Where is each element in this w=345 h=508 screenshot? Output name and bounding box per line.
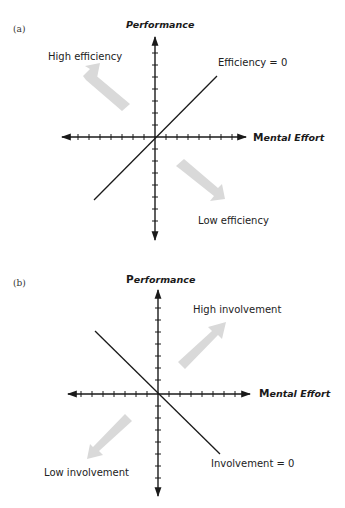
panel-label: (b): [13, 278, 26, 288]
panel-b-involvement: (b) Performance Mental Effort High invol…: [0, 254, 345, 508]
y-axis-title: Performance: [126, 19, 194, 30]
low-efficiency-arrow-icon: [176, 159, 225, 201]
involvement-zero-label: Involvement = 0: [211, 458, 294, 469]
low-efficiency-label: Low efficiency: [198, 215, 269, 226]
low-involvement-arrow-icon: [87, 414, 132, 459]
x-axis-title: Mental Effort: [259, 387, 330, 399]
panel-label: (a): [13, 24, 25, 34]
y-axis-title: Performance: [126, 273, 195, 285]
high-efficiency-label: High efficiency: [48, 51, 122, 62]
high-involvement-label: High involvement: [193, 304, 281, 315]
low-involvement-label: Low involvement: [44, 467, 129, 478]
x-axis-title: Mental Effort: [253, 131, 324, 143]
efficiency-zero-label: Efficiency = 0: [218, 57, 287, 68]
high-involvement-arrow-icon: [178, 322, 226, 369]
panel-a-graph: [0, 0, 345, 254]
panel-a-efficiency: (a) Performance Mental Effort High effic…: [0, 0, 345, 254]
high-efficiency-arrow-icon: [83, 63, 130, 111]
